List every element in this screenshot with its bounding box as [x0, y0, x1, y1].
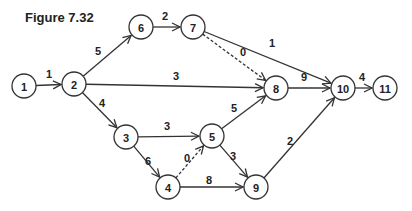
edge-7-10: 1 — [204, 32, 331, 84]
edge-weight-label: 2 — [287, 135, 293, 147]
node-11: 11 — [373, 76, 397, 100]
node-label: 7 — [190, 22, 196, 34]
node-label: 4 — [165, 182, 172, 194]
edge-4-5: 0 — [176, 146, 204, 178]
node-6: 6 — [129, 15, 153, 39]
edge-10-11: 4 — [355, 71, 372, 88]
network-diagram: 1534201943608532 1234567891011 — [0, 0, 412, 211]
edge-1-2: 1 — [36, 68, 61, 86]
edge-6-7: 2 — [153, 10, 180, 27]
edge-2-6: 5 — [83, 35, 131, 76]
edge-weight-label: 3 — [164, 120, 170, 132]
node-label: 5 — [209, 131, 215, 143]
node-label: 2 — [71, 79, 77, 91]
edge-2-3: 4 — [82, 93, 116, 128]
node-label: 9 — [253, 182, 259, 194]
edge-5-9: 3 — [220, 145, 248, 177]
edge-weight-label: 4 — [99, 97, 106, 109]
edge-weight-label: 2 — [162, 10, 168, 22]
node-1: 1 — [12, 74, 36, 98]
node-label: 6 — [138, 22, 144, 34]
edge-9-10: 2 — [264, 98, 334, 178]
node-7: 7 — [181, 15, 205, 39]
arrow-line — [36, 85, 61, 86]
node-label: 10 — [337, 83, 349, 95]
node-label: 8 — [273, 83, 279, 95]
edge-weight-label: 6 — [145, 155, 151, 167]
edge-weight-label: 3 — [230, 150, 236, 162]
edge-4-9: 8 — [180, 174, 243, 187]
edge-3-4: 6 — [134, 146, 160, 177]
arrow-line — [204, 32, 331, 84]
node-10: 10 — [331, 76, 355, 100]
node-label: 11 — [379, 83, 391, 95]
arrow-line — [138, 136, 199, 137]
node-5: 5 — [200, 124, 224, 148]
edge-weight-label: 9 — [301, 71, 307, 83]
edge-weight-label: 8 — [206, 174, 212, 186]
edge-7-8: 0 — [203, 34, 266, 80]
edge-3-5: 3 — [138, 120, 199, 137]
node-3: 3 — [114, 125, 138, 149]
edge-2-8: 3 — [86, 70, 263, 88]
node-2: 2 — [62, 72, 86, 96]
edge-weight-label: 3 — [173, 70, 179, 82]
edge-weight-label: 4 — [359, 71, 366, 83]
node-4: 4 — [156, 175, 180, 199]
node-9: 9 — [244, 175, 268, 199]
edge-weight-label: 5 — [95, 45, 101, 57]
arrow-line — [222, 96, 266, 129]
edge-5-8: 5 — [222, 96, 266, 129]
node-label: 1 — [21, 81, 27, 93]
arrow-line — [83, 35, 131, 76]
edge-weight-label: 0 — [184, 152, 190, 164]
edge-weight-label: 1 — [269, 37, 275, 49]
edge-weight-label: 5 — [231, 102, 237, 114]
arrow-line — [264, 98, 334, 178]
node-8: 8 — [264, 76, 288, 100]
arrow-line — [86, 84, 263, 88]
edge-weight-label: 1 — [46, 68, 52, 80]
arrow-line — [203, 34, 266, 80]
node-label: 3 — [123, 132, 129, 144]
